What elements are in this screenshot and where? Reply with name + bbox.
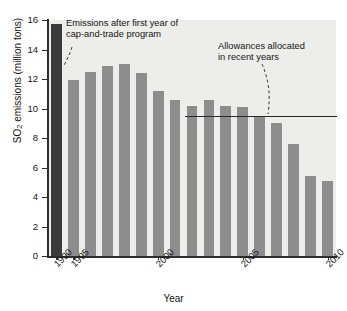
y-tick-12 — [42, 79, 47, 80]
y-tick-14 — [42, 50, 47, 51]
y-tick-0 — [42, 256, 47, 257]
y-tick-16 — [42, 20, 47, 21]
y-tick-2 — [42, 227, 47, 228]
leader-line-allowances — [0, 0, 347, 311]
so2-emissions-bar-chart: 0246810121416 SO2 emissions (million ton… — [0, 0, 347, 311]
y-tick-4 — [42, 197, 47, 198]
y-tick-6 — [42, 168, 47, 169]
y-tick-8 — [42, 138, 47, 139]
y-tick-10 — [42, 109, 47, 110]
